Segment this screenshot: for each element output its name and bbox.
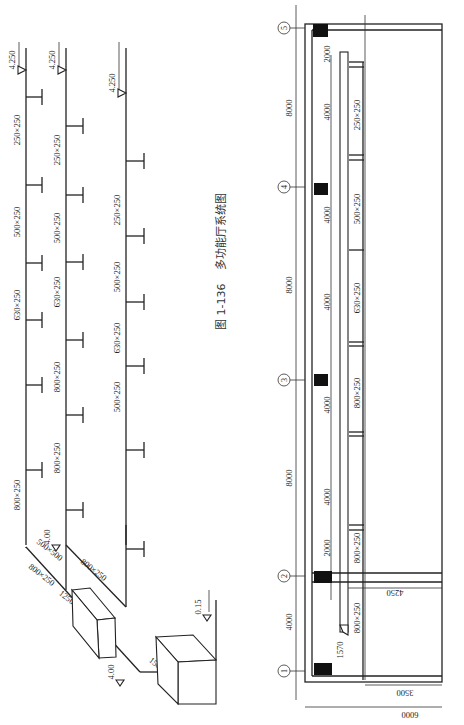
diffuser-terminal [26, 177, 42, 193]
duct-size-label: 500×250 [112, 382, 122, 412]
duct-size-label: 630×250 [112, 323, 122, 353]
diffuser-terminal [126, 541, 144, 557]
diffuser-terminal [26, 377, 42, 393]
elevation-marker-icon [18, 66, 26, 74]
plan-duct-size-label: 800×250 [352, 378, 362, 408]
axis-label: 2 [280, 574, 289, 578]
elevation-marker-icon [58, 66, 66, 74]
axis-label: 5 [280, 26, 289, 30]
axis-dimension: 8000 [284, 100, 294, 117]
column-3 [314, 374, 328, 386]
diffuser-terminal [126, 358, 144, 374]
diffuser-terminal [26, 255, 42, 271]
dimension-label: 1570 [335, 642, 345, 659]
duct-size-label: 500×250 [112, 262, 122, 292]
duct-size-label: 800×250 [52, 443, 62, 473]
plan-duct-size-label: 250×250 [352, 100, 362, 130]
duct-size-label: 250×250 [12, 115, 22, 145]
sub-dimension: 4000 [322, 489, 332, 506]
duct-size-label: 630×250 [12, 290, 22, 320]
sub-dimension: 4000 [322, 104, 332, 121]
diffuser-terminal [66, 187, 83, 203]
dimension-label: 3500 [397, 688, 414, 698]
elevation-marker-icon [203, 615, 211, 621]
sub-dimension: 4000 [322, 207, 332, 224]
diffuser-terminal [26, 312, 42, 328]
plan-duct-size-label: 800×250 [352, 533, 362, 563]
column-1 [314, 663, 332, 675]
diffuser-terminal [126, 442, 144, 458]
column-4 [314, 183, 328, 195]
elevation-label: 4.00 [106, 665, 116, 680]
axis-bubble-5: 5 [278, 22, 305, 34]
elevation-label: 4.250 [107, 73, 117, 92]
duct-size-label: 250×250 [52, 135, 62, 165]
axis-bubble-2: 2 [278, 570, 305, 582]
plan-duct-size-label: 800×250 [352, 603, 362, 633]
sub-dimension: 2000 [322, 46, 332, 63]
dimension-label: 6000 [402, 710, 419, 720]
axis-bubble-3: 3 [278, 374, 305, 386]
elevation-marker-icon [118, 89, 126, 97]
branch-2: 4.250250×250500×250630×250800×250800×250 [47, 42, 83, 545]
diffuser-terminal [26, 89, 42, 105]
floor-plan [296, 5, 442, 707]
diffuser-terminal [66, 254, 83, 270]
diffuser-terminal [66, 407, 83, 423]
duct-size-label: 500×250 [52, 213, 62, 243]
diffuser-terminal [126, 153, 144, 169]
sub-dimension: 4000 [322, 294, 332, 311]
main-duct-size-label: 800×250 [79, 556, 109, 583]
elevation-label: 4.00 [42, 530, 52, 545]
diffuser-terminal [66, 502, 83, 518]
diffuser-terminal [126, 228, 144, 244]
axis-label: 3 [280, 378, 289, 382]
silencer-box [72, 588, 116, 658]
drawing-svg: 4.250250×250500×250630×250800×2504.25025… [0, 0, 464, 725]
diffuser-terminal [126, 294, 144, 310]
elevation-label: 4.250 [7, 50, 17, 69]
figure-title: 多功能厅系统图 [215, 193, 228, 270]
branch-3: 4.250250×250500×250630×250500×250 [107, 42, 144, 557]
elevation-label: 4.250 [47, 50, 57, 69]
axis-label: 4 [280, 185, 289, 189]
branch-1: 4.250250×250500×250630×250800×250 [7, 42, 42, 545]
main-duct-size-label: 800×250 [27, 561, 57, 588]
elevation-label: 0.15 [193, 600, 203, 615]
axis-dimension: 8000 [284, 277, 294, 294]
duct-size-label: 250×250 [112, 195, 122, 225]
sub-dimension: 2000 [322, 540, 332, 557]
duct-size-label: 500×250 [12, 207, 22, 237]
duct-size-label: 800×250 [52, 362, 62, 392]
diffuser-terminal [26, 462, 42, 478]
drawing-page: 4.250250×250500×250630×250800×2504.25025… [0, 0, 464, 725]
duct-size-label: 630×250 [52, 277, 62, 307]
axis-label: 1 [280, 669, 289, 673]
air-handling-unit [156, 590, 216, 704]
figure-number: 图 1-136 [215, 284, 228, 330]
elevation-marker-icon [116, 680, 124, 686]
figure-caption: 图 1-136 多功能厅系统图 [212, 193, 228, 330]
column-2 [314, 571, 332, 583]
diffuser-terminal [66, 332, 83, 348]
elevation-mark: 0.15 [193, 600, 211, 621]
plan-duct-size-label: 500×250 [352, 194, 362, 224]
axis-bubble-4: 4 [278, 181, 305, 193]
axis-dimension: 8000 [284, 470, 294, 487]
sub-dimension: 4000 [322, 397, 332, 414]
axis-dimension: 4000 [284, 614, 294, 631]
diffuser-terminal [66, 118, 83, 134]
duct-size-label: 800×250 [12, 480, 22, 510]
dimension-label: 4250 [387, 588, 404, 598]
elevation-mark: 4.00 [106, 665, 124, 686]
axis-bubble-1: 1 [278, 665, 305, 677]
column-5 [313, 24, 328, 37]
plan-duct-size-label: 630×250 [352, 283, 362, 313]
